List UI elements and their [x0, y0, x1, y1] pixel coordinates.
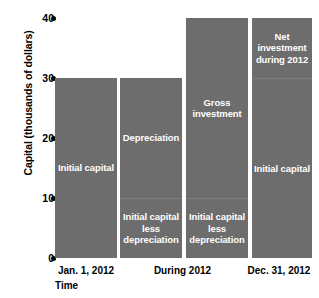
bar-segment-label: Initial capital — [253, 163, 311, 175]
x-group-label-jan-1-2012: Jan. 1, 2012 — [48, 264, 124, 278]
bar-segment-label: Initial capital less depreciation — [120, 211, 182, 246]
bar-depreciation-during[interactable]: Depreciation Initial capital less deprec… — [120, 78, 182, 258]
bar-segment-depreciation: Depreciation — [120, 78, 182, 198]
bar-initial-capital-jan[interactable]: Initial capital — [55, 78, 117, 258]
bar-segment-label: Initial capital — [57, 162, 115, 174]
bar-segment-initial-capital-less-depreciation: Initial capital less depreciation — [186, 198, 248, 258]
bar-segment-label: Gross investment — [186, 97, 248, 120]
bar-segment-label: Initial capital less depreciation — [186, 211, 248, 246]
x-group-label-dec-31-2012: Dec. 31, 2012 — [238, 264, 319, 278]
bar-segment-initial-capital: Initial capital — [55, 78, 117, 258]
bar-final-capital-dec[interactable]: Net investment during 2012 Initial capit… — [252, 18, 312, 258]
bar-segment-net-investment: Net investment during 2012 — [252, 18, 312, 78]
x-axis-title: Time — [55, 280, 78, 291]
x-group-label-during-2012: During 2012 — [135, 264, 230, 278]
bar-segment-label: Depreciation — [122, 132, 180, 144]
bar-segment-label: Net investment during 2012 — [252, 31, 312, 66]
bar-gross-investment-during[interactable]: Gross investment Initial capital less de… — [186, 18, 248, 258]
capital-accumulation-bar-chart: Capital (thousands of dollars) 40 30 20 … — [0, 0, 319, 298]
plot-area: Initial capital Depreciation Initial cap… — [0, 0, 319, 298]
bar-segment-initial-capital: Initial capital — [252, 78, 312, 258]
bar-segment-gross-investment: Gross investment — [186, 18, 248, 198]
bar-segment-initial-capital-less-depreciation: Initial capital less depreciation — [120, 198, 182, 258]
